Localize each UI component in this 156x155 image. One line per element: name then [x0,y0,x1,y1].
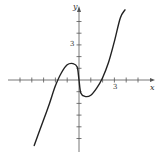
x-axis-label: x [150,84,155,92]
function-graph [0,0,156,155]
y-tick-label-3: 3 [70,41,74,48]
x-axis-arrow-icon [150,78,155,82]
function-curve [34,10,125,146]
x-tick-label-3: 3 [113,84,117,91]
x-axis [8,78,155,83]
y-axis-label: y [73,3,78,11]
